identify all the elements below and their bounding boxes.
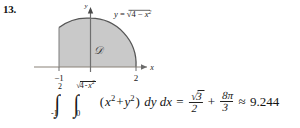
region-plot-svg: −1 2 x y 𝒟 y = √4 − x2 bbox=[28, 0, 178, 88]
result-term2-denominator: 3 bbox=[218, 102, 234, 114]
x-axis-label: x bbox=[149, 63, 154, 72]
radicand: 3 bbox=[195, 90, 204, 102]
y-axis-arrowhead bbox=[88, 7, 93, 14]
result-term-sqrt3-over-2: √3 2 bbox=[186, 90, 205, 114]
result-term1-denominator: 2 bbox=[186, 102, 202, 114]
radicand: 4-x2 bbox=[80, 81, 96, 90]
inner-integral-upper-limit: √4-x2 bbox=[76, 81, 95, 90]
region-plot: −1 2 x y 𝒟 y = √4 − x2 bbox=[28, 0, 178, 88]
inner-integral: ∫ √4-x2 0 bbox=[72, 90, 86, 116]
result-plus-sign: + bbox=[207, 94, 216, 109]
approximate-value: 9.244 bbox=[250, 94, 279, 109]
approximately-equal-sign: ≈ bbox=[238, 94, 247, 109]
differentials: dy dx bbox=[144, 94, 172, 109]
integral-equation: ∫ 2 -1 ∫ √4-x2 0 (x2+y2) dy dx = √3 2 bbox=[52, 90, 279, 116]
outer-integral-upper-limit: 2 bbox=[58, 83, 62, 91]
shaded-region-d bbox=[59, 18, 136, 67]
y-axis-label: y bbox=[83, 2, 88, 10]
x-tick-label-2: 2 bbox=[134, 73, 139, 83]
equals-sign: = bbox=[175, 94, 184, 109]
inner-integral-lower-limit: 0 bbox=[76, 110, 80, 118]
outer-integral-lower-limit: -1 bbox=[51, 110, 58, 118]
result-term1-numerator: √3 bbox=[189, 90, 205, 102]
result-term-8pi-over-3: 8π 3 bbox=[218, 90, 236, 113]
integral-equation-line: ∫ 2 -1 ∫ √4-x2 0 (x2+y2) dy dx = √3 2 bbox=[0, 88, 300, 128]
outer-integral: ∫ 2 -1 bbox=[53, 90, 67, 116]
result-term2-numerator: 8π bbox=[220, 90, 235, 101]
curve-equation-label: y = √4 − x2 bbox=[113, 9, 152, 19]
integrand-expression: (x2+y2) bbox=[99, 94, 141, 109]
x-axis-arrowhead bbox=[141, 64, 147, 69]
upper-limit-radical: √4-x2 bbox=[76, 81, 95, 90]
problem-number: 13. bbox=[3, 3, 16, 15]
textbook-problem-figure: 13. −1 2 x y 𝒟 bbox=[0, 0, 300, 128]
